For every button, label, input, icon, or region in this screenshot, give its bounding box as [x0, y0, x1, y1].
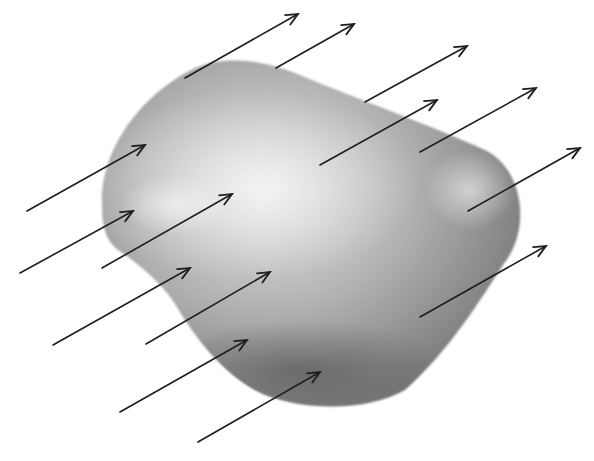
arrowhead-icon [424, 100, 437, 110]
arrow-shaft [420, 88, 536, 152]
arrowhead-icon [533, 246, 546, 256]
arrowhead-icon [341, 24, 354, 34]
surface-highlight-right [425, 150, 515, 230]
field-arrow [53, 268, 190, 345]
field-arrow [276, 24, 354, 68]
field-arrow [120, 340, 247, 412]
arrowhead-icon [285, 14, 298, 25]
arrow-shaft [276, 24, 354, 68]
arrowhead-icon [567, 148, 580, 158]
field-arrow [420, 88, 536, 152]
closed-surface [80, 61, 520, 420]
arrow-shaft [53, 268, 190, 345]
figure-canvas [0, 0, 594, 461]
flux-diagram [0, 0, 594, 461]
field-arrow [365, 46, 467, 102]
arrow-shaft [120, 340, 247, 412]
arrow-shaft [365, 46, 467, 102]
